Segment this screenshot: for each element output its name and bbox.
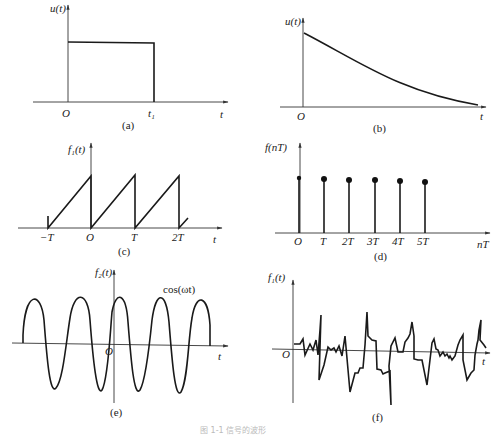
xlabel-f: t <box>482 355 486 367</box>
xlabel-c: t <box>213 233 217 245</box>
ylabel-b: u(t) <box>285 15 301 28</box>
tick-2T: 2T <box>172 231 185 243</box>
figure-caption: 图 1-1 信号的波形 <box>200 425 266 435</box>
panel-f: f₁(t) O t (f) <box>268 271 490 424</box>
caption-d: (d) <box>374 250 387 263</box>
ylabel-d: f(nT) <box>265 141 287 154</box>
ylabel-f: f₁(t) <box>268 271 286 284</box>
tick-d-5T: 5T <box>417 235 430 247</box>
caption-b: (b) <box>373 122 386 135</box>
panel-b: u(t) O t (b) <box>280 15 486 135</box>
xlabel-d: nT <box>477 238 490 250</box>
tick-d-3T: 3T <box>366 235 380 247</box>
tick-O: O <box>86 231 94 243</box>
panel-d: f(nT) O T 2T 3T 4T 5T nT (d) <box>265 141 490 263</box>
annotation-cos: cos(ωt) <box>163 283 196 296</box>
origin-f: O <box>282 348 290 360</box>
tick-minus-T: −T <box>40 231 54 243</box>
figure-canvas: u(t) O t₁ t (a) u(t) O t (b) f₁(t) −T O … <box>0 0 496 436</box>
origin-e: O <box>105 345 113 357</box>
tick-d-O: O <box>294 235 302 247</box>
panel-a: u(t) O t₁ t (a) <box>33 2 228 132</box>
ylabel-e: f₂(t) <box>95 266 113 279</box>
origin-b: O <box>297 110 305 122</box>
caption-a: (a) <box>122 119 135 132</box>
caption-c: (c) <box>118 245 131 258</box>
panel-c: f₁(t) −T O T 2T t (c) <box>18 143 222 258</box>
stems <box>297 176 428 233</box>
panel-e: f₂(t) O t cos(ωt) (e) <box>12 266 228 419</box>
xlabel-a: t <box>220 108 224 120</box>
caption-f: (f) <box>372 411 383 424</box>
ylabel-a: u(t) <box>50 2 66 15</box>
xlabel-b: t <box>480 110 484 122</box>
tick-d-4T: 4T <box>392 235 405 247</box>
tick-d-T: T <box>320 235 327 247</box>
tick-T: T <box>131 231 138 243</box>
tick-t1: t₁ <box>148 107 155 119</box>
ylabel-c: f₁(t) <box>68 143 86 156</box>
tick-d-2T: 2T <box>342 235 355 247</box>
xlabel-e: t <box>218 350 222 362</box>
origin-a: O <box>62 107 70 119</box>
caption-e: (e) <box>110 406 123 419</box>
